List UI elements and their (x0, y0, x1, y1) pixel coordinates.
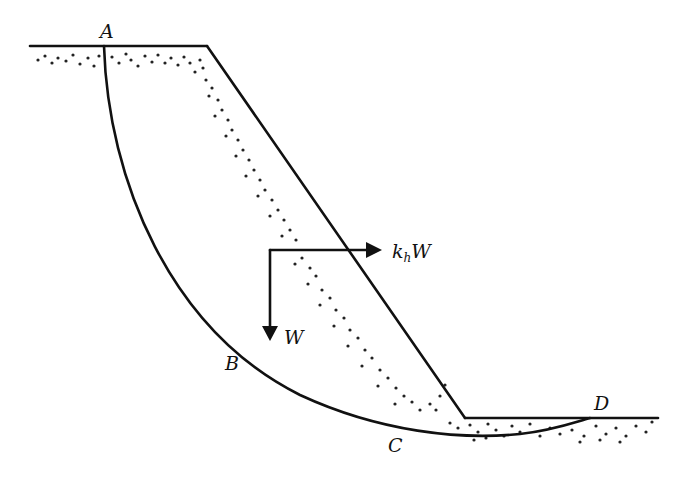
label-D: D (593, 392, 609, 414)
seismic-subscript: h (404, 251, 412, 265)
slope-face (207, 46, 465, 418)
soil-stipple (36, 52, 653, 443)
weight-arrowhead-icon (262, 326, 278, 341)
label-B: B (224, 352, 239, 374)
label-C: C (388, 434, 403, 456)
label-seismic-force: khW (392, 240, 432, 265)
slip-surface (104, 46, 590, 436)
slope-stability-diagram: A B C D W khW (0, 0, 684, 477)
label-weight: W (284, 326, 305, 348)
seismic-coefficient: k (392, 240, 404, 262)
seismic-arrowhead-icon (366, 242, 382, 258)
label-A: A (98, 20, 114, 42)
seismic-weight: W (411, 240, 432, 262)
